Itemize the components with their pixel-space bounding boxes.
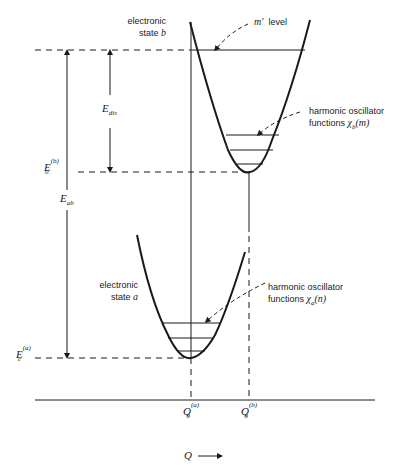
state-a-label: electronic state a bbox=[90, 280, 138, 303]
q0-b-label: Q(b)0 bbox=[241, 404, 261, 420]
energy-diagram bbox=[0, 0, 408, 469]
state-b-label: electronic state b bbox=[118, 16, 166, 39]
ec-a-label: E(a)c bbox=[16, 347, 34, 363]
m-prime-level-label: m′ level bbox=[254, 16, 287, 28]
state-b-label-line1: electronic bbox=[118, 16, 166, 27]
q-axis-label: Q bbox=[184, 449, 192, 461]
state-b-var: b bbox=[161, 27, 166, 38]
chi-a-label: harmonic oscillator functions χa(n) bbox=[268, 282, 343, 309]
m-prime-pointer-arrow bbox=[216, 24, 248, 49]
q0-a-label: Q(a)0 bbox=[183, 404, 203, 420]
state-a-var: a bbox=[133, 291, 138, 302]
chi-b-label: harmonic oscillator functions χb(m) bbox=[309, 106, 384, 133]
e-ab-label: Eab bbox=[60, 192, 74, 207]
chi-a-pointer-arrow bbox=[207, 283, 265, 321]
e-dis-label: Edis bbox=[102, 102, 117, 117]
e0-b-label: E(b)0 bbox=[44, 160, 62, 176]
